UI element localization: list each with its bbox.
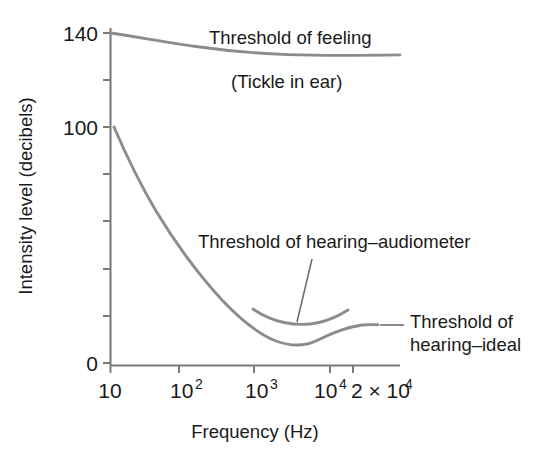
leader-line-audiometer xyxy=(297,259,312,322)
x-tick-label-20000: 2 × 10 xyxy=(351,379,410,402)
x-tick-label-1000: 10 xyxy=(245,379,268,402)
chart-container: 140 100 0 10 10 2 10 3 10 4 2 × 10 4 Fre… xyxy=(0,0,548,465)
y-tick-labels: 140 100 0 xyxy=(63,22,98,375)
x-tick-marks xyxy=(111,366,354,374)
annotations: Threshold of feeling (Tickle in ear) Thr… xyxy=(198,27,521,355)
x-tick-label-10: 10 xyxy=(98,379,121,402)
annotation-tickle-in-ear: (Tickle in ear) xyxy=(231,71,342,92)
x-axis-title: Frequency (Hz) xyxy=(191,421,318,442)
x-tick-label-10000-exponent: 4 xyxy=(339,376,347,392)
y-tick-label-140: 140 xyxy=(63,22,98,45)
y-tick-marks xyxy=(103,33,111,363)
curve-threshold-of-hearing-audiometer xyxy=(253,309,348,324)
annotation-threshold-of-hearing-audiometer: Threshold of hearing–audiometer xyxy=(198,231,471,252)
x-tick-label-100: 10 xyxy=(170,379,193,402)
annotation-threshold-of-hearing-ideal-line1: Threshold of xyxy=(410,311,514,332)
x-tick-label-20000-exponent: 4 xyxy=(405,376,413,392)
y-tick-label-0: 0 xyxy=(86,352,98,375)
annotation-threshold-of-feeling: Threshold of feeling xyxy=(209,27,372,48)
y-axis-title: Intensity level (decibels) xyxy=(15,97,36,294)
leader-lines xyxy=(297,259,404,325)
x-tick-label-10000: 10 xyxy=(314,379,337,402)
x-tick-label-100-exponent: 2 xyxy=(195,376,203,392)
annotation-threshold-of-hearing-ideal-line2: hearing–ideal xyxy=(410,334,521,355)
x-tick-labels: 10 10 2 10 3 10 4 2 × 10 4 xyxy=(98,376,413,402)
x-tick-label-1000-exponent: 3 xyxy=(270,376,278,392)
y-tick-label-100: 100 xyxy=(63,116,98,139)
intensity-vs-frequency-chart: 140 100 0 10 10 2 10 3 10 4 2 × 10 4 Fre… xyxy=(0,0,548,465)
